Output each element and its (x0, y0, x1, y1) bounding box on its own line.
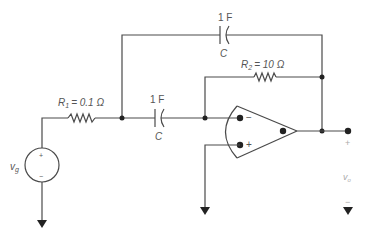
opamp-minus-label: − (246, 112, 252, 123)
node-b (203, 116, 208, 121)
capacitor-top-value: 1 F (218, 12, 232, 23)
ground-arrow-output-icon (343, 207, 353, 215)
ground-arrow-opamp-icon (200, 207, 210, 215)
source-minus-label: − (39, 173, 43, 180)
ground-arrow-source-icon (37, 220, 47, 228)
output-minus-label: − (345, 197, 350, 207)
capacitor-mid-value: 1 F (150, 94, 164, 105)
output-terminal (345, 128, 351, 134)
node-a (120, 116, 125, 121)
node-r2-out (320, 75, 325, 80)
input-wire (42, 118, 240, 148)
r1-symbol: R1= 0.1 Ω (58, 97, 104, 109)
source-plus-label: + (39, 152, 43, 159)
output-voltage-label: vo (343, 172, 352, 183)
r2-symbol: R2= 10 Ω (241, 59, 285, 71)
output-plus-label: + (345, 138, 350, 148)
noninv-ground-wire (205, 145, 240, 207)
r2-feedback-wire (205, 77, 322, 118)
circuit-diagram: 1 F C R2= 10 Ω R1= 0.1 Ω 1 F C − + + v (0, 0, 371, 233)
capacitor-mid-name: C (155, 131, 163, 142)
capacitor-top-name: C (220, 48, 228, 59)
source-label: vg (10, 161, 19, 174)
opamp-icon (226, 106, 298, 158)
resistor-r2-icon (254, 73, 276, 81)
resistor-r1-icon (68, 114, 95, 122)
opamp-plus-label: + (246, 139, 252, 150)
